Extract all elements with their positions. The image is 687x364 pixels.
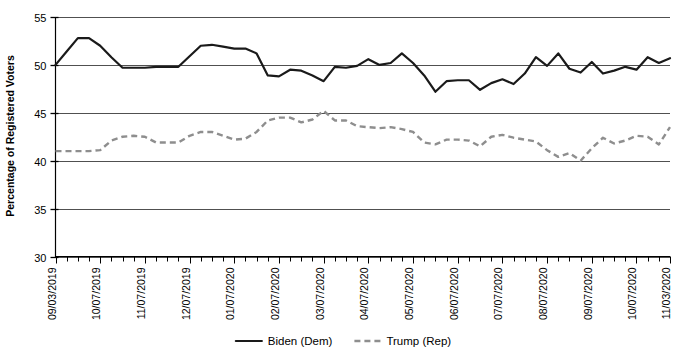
y-tick-label-50: 50: [34, 60, 46, 72]
x-tick-label-9: 06/07/2020: [448, 267, 460, 320]
x-axis-tick-labels: 09/03/201910/07/201911/07/201912/07/2019…: [46, 267, 673, 320]
gridlines: [56, 18, 671, 258]
x-tick-label-2: 11/07/2019: [135, 267, 147, 319]
y-tick-label-55: 55: [34, 12, 46, 24]
x-tick-label-5: 02/07/2020: [269, 267, 281, 320]
x-tick-label-0: 09/03/2019: [46, 267, 58, 320]
x-tick-label-10: 07/07/2020: [492, 267, 504, 320]
series-line-trump: [56, 111, 671, 161]
x-tick-label-7: 04/07/2020: [358, 267, 370, 320]
x-tick-label-4: 01/07/2020: [224, 267, 236, 320]
chart-legend: Biden (Dem) Trump (Rep): [236, 335, 451, 347]
y-tick-label-35: 35: [34, 204, 46, 216]
x-tick-label-8: 05/07/2020: [403, 267, 415, 320]
x-tick-label-14: 11/03/2020: [660, 267, 672, 319]
x-tick-label-11: 08/07/2020: [537, 267, 549, 320]
x-tick-label-3: 12/07/2019: [180, 267, 192, 320]
y-axis-ticks: [51, 18, 59, 258]
y-axis-tick-labels: 303540455055: [34, 12, 46, 264]
chart-container: 303540455055 09/03/201910/07/201911/07/2…: [0, 0, 687, 364]
x-tick-label-6: 03/07/2020: [314, 267, 326, 320]
x-tick-label-1: 10/07/2019: [90, 267, 102, 320]
legend-label-trump: Trump (Rep): [386, 335, 451, 347]
x-tick-label-12: 09/07/2020: [582, 267, 594, 320]
series-line-biden: [56, 38, 671, 92]
y-tick-label-40: 40: [34, 156, 46, 168]
poll-average-line-chart: 303540455055 09/03/201910/07/201911/07/2…: [0, 0, 687, 364]
x-tick-label-13: 10/07/2020: [626, 267, 638, 320]
faint-header-text: [150, 0, 610, 9]
y-tick-label-30: 30: [34, 252, 46, 264]
legend-label-biden: Biden (Dem): [268, 335, 333, 347]
y-axis-title: Percentage of Registered Voters: [4, 55, 16, 217]
y-tick-label-45: 45: [34, 108, 46, 120]
